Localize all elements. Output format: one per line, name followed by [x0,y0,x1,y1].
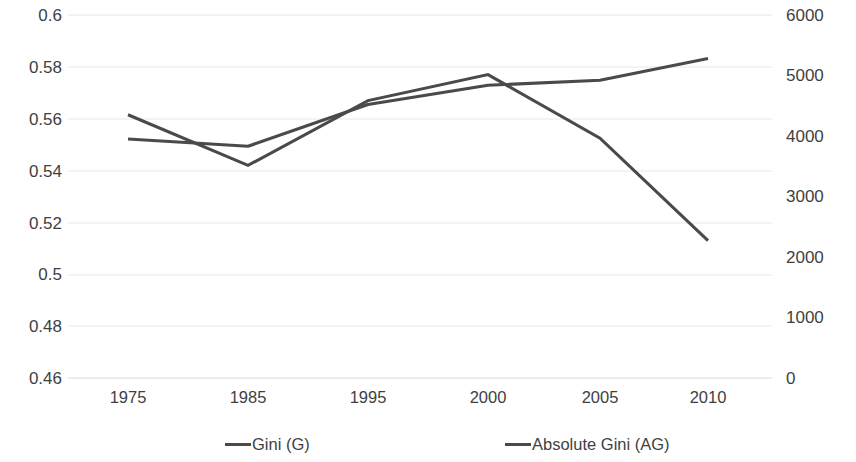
chart-legend: Gini (G) Absolute Gini (AG) [0,432,856,462]
x-axis-tick-4: 2005 [560,389,640,406]
x-axis-tick-5: 2010 [668,389,748,406]
series-lines [128,59,708,241]
x-axis-tick-2: 1995 [328,389,408,406]
series-line-absolute-gini [128,59,708,147]
x-axis-tick-3: 2000 [448,389,528,406]
series-line-gini [128,75,708,241]
legend-label-gini: Gini (G) [252,436,310,453]
line-chart: 0.6 0.58 0.56 0.54 0.52 0.5 0.48 0.46 60… [0,0,856,462]
legend-line-icon-absolute-gini [505,443,531,446]
legend-label-absolute-gini: Absolute Gini (AG) [532,436,670,453]
gridlines [68,15,772,378]
legend-line-icon-gini [225,443,251,446]
legend-item-absolute-gini[interactable]: Absolute Gini (AG) [505,432,670,456]
x-axis-tick-1: 1985 [208,389,288,406]
x-axis-tick-0: 1975 [88,389,168,406]
legend-item-gini[interactable]: Gini (G) [225,432,310,456]
